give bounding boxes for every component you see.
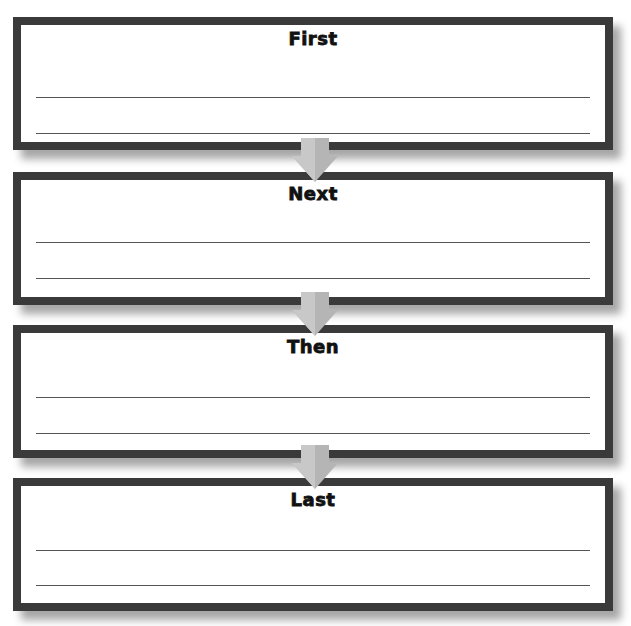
writing-line[interactable] [36,242,590,243]
down-arrow-icon [292,138,338,182]
step-title: Next [21,183,605,204]
step-title: Last [21,489,605,510]
step-box-last: Last [13,478,613,611]
step-box-then: Then [13,325,613,458]
step-title: Then [21,336,605,357]
step-box-next: Next [13,172,613,305]
writing-line[interactable] [36,585,590,586]
writing-line[interactable] [36,278,590,279]
step-title: First [21,28,605,49]
writing-line[interactable] [36,550,590,551]
writing-line[interactable] [36,433,590,434]
writing-line[interactable] [36,97,590,98]
writing-line[interactable] [36,133,590,134]
writing-line[interactable] [36,397,590,398]
down-arrow-icon [292,292,338,336]
down-arrow-icon [292,445,338,489]
step-box-first: First [13,17,613,150]
